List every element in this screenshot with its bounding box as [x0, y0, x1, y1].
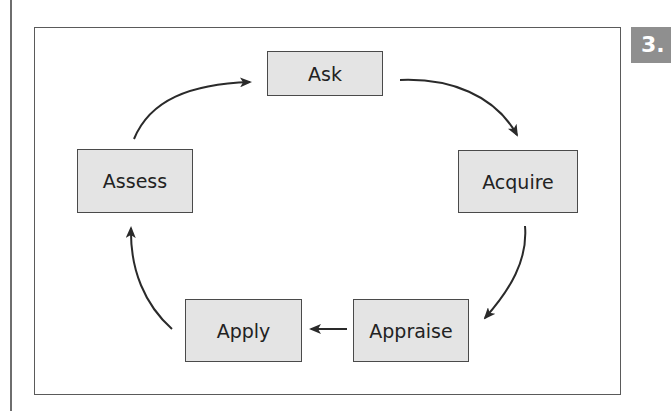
node-assess: Assess — [77, 149, 193, 213]
node-apply: Apply — [185, 299, 302, 362]
arrow-acquire-to-appraise — [485, 226, 525, 318]
node-acquire-label: Acquire — [482, 171, 554, 193]
node-appraise-label: Appraise — [369, 320, 452, 342]
node-appraise: Appraise — [353, 299, 469, 362]
node-acquire: Acquire — [458, 150, 578, 213]
node-apply-label: Apply — [217, 320, 271, 342]
node-ask: Ask — [267, 51, 383, 96]
node-ask-label: Ask — [308, 63, 342, 85]
arrow-apply-to-assess — [131, 228, 172, 329]
arrow-assess-to-ask — [134, 82, 250, 139]
arrow-ask-to-acquire — [400, 80, 517, 135]
node-assess-label: Assess — [103, 170, 167, 192]
